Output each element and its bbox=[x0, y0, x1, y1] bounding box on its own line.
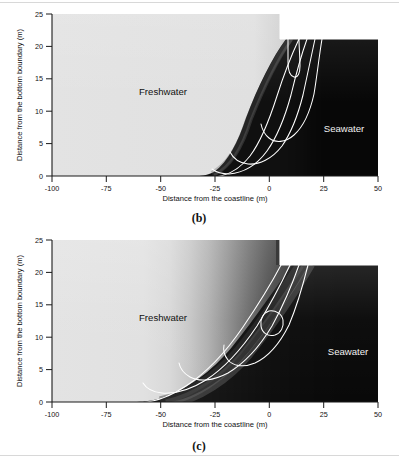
panel-b-ytick-25: 25 bbox=[35, 10, 43, 19]
panel-c-xtick-0: 0 bbox=[267, 410, 271, 419]
panel-b-freshwater-label: Freshwater bbox=[139, 86, 188, 97]
panel-b-xtick--75: -75 bbox=[101, 184, 111, 193]
panel-b-x-ticks bbox=[52, 176, 378, 182]
panel-c-xtick-25: 25 bbox=[320, 410, 328, 419]
panel-b-field bbox=[52, 14, 378, 176]
panel-c-ytick-5: 5 bbox=[39, 365, 43, 374]
domain-step-edge bbox=[280, 240, 378, 265]
panel-c-y-axis-title: Distance from the bottom boundary (m) bbox=[15, 254, 24, 387]
panel-c-x-axis-title: Distance from the coastline (m) bbox=[162, 420, 268, 429]
panel-c-xtick--100: -100 bbox=[45, 410, 59, 419]
panel-b-xtick--100: -100 bbox=[45, 184, 59, 193]
panel-b-xtick-50: 50 bbox=[374, 184, 382, 193]
panel-b-caption: (b) bbox=[192, 211, 207, 225]
panel-c-ytick-15: 15 bbox=[35, 300, 43, 309]
panel-b-ytick-5: 5 bbox=[39, 139, 43, 148]
panel-c-y-ticks bbox=[46, 240, 52, 402]
panel-c-plot: 0 5 10 15 20 25 -100 -75 -50 -25 bbox=[0, 229, 399, 458]
panel-b-ytick-0: 0 bbox=[39, 172, 43, 181]
panel-b-y-ticks bbox=[46, 14, 52, 176]
panel-b-ytick-15: 15 bbox=[35, 74, 43, 83]
panel-c-step-sliver bbox=[276, 240, 279, 265]
domain-step-edge bbox=[280, 14, 378, 39]
panel-c-seawater-label: Seawater bbox=[328, 346, 369, 357]
panel-c-ytick-20: 20 bbox=[35, 268, 43, 277]
panel-b-xtick-0: 0 bbox=[267, 184, 271, 193]
panel-c: 0 5 10 15 20 25 -100 -75 -50 -25 bbox=[0, 229, 399, 458]
panel-b-ytick-10: 10 bbox=[35, 107, 43, 116]
panel-c-xtick--50: -50 bbox=[156, 410, 166, 419]
panel-c-xtick--75: -75 bbox=[101, 410, 111, 419]
panel-b-seawater-label: Seawater bbox=[324, 123, 365, 134]
panel-b-ytick-20: 20 bbox=[35, 42, 43, 51]
panel-c-caption: (c) bbox=[192, 439, 205, 453]
panel-c-freshwater-label: Freshwater bbox=[139, 312, 188, 323]
panel-b-xtick-25: 25 bbox=[320, 184, 328, 193]
panel-b-plot: 0 5 10 15 20 25 -100 -75 -50 bbox=[0, 0, 399, 229]
figure-container: 0 5 10 15 20 25 -100 -75 -50 bbox=[0, 0, 399, 458]
panel-c-xtick-50: 50 bbox=[374, 410, 382, 419]
panel-c-xtick--25: -25 bbox=[210, 410, 220, 419]
panel-b-y-axis-title: Distance from the bottom boundary (m) bbox=[15, 28, 24, 161]
panel-b-xtick--25: -25 bbox=[210, 184, 220, 193]
panel-c-ytick-10: 10 bbox=[35, 333, 43, 342]
panel-c-ytick-0: 0 bbox=[39, 398, 43, 407]
panel-c-ytick-25: 25 bbox=[35, 236, 43, 245]
panel-b-x-axis-title: Distance from the coastline (m) bbox=[162, 194, 268, 203]
panel-b: 0 5 10 15 20 25 -100 -75 -50 bbox=[0, 0, 399, 229]
panel-b-xtick--50: -50 bbox=[156, 184, 166, 193]
panel-c-x-ticks bbox=[52, 402, 378, 408]
